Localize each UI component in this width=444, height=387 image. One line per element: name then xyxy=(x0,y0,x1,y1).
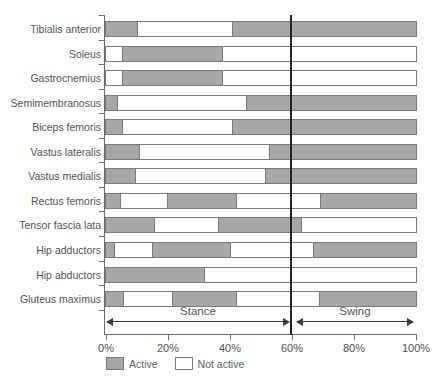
x-axis-tick-label: 80% xyxy=(332,342,376,354)
x-axis-tick xyxy=(230,334,231,340)
bar-segment-active-biceps-femoris xyxy=(105,119,123,135)
bar-segment-active-rectus-femoris xyxy=(167,193,237,209)
y-axis-tick xyxy=(99,64,104,65)
bar-segment-active-semimembranosus xyxy=(105,95,118,111)
bar-segment-active-hip-abductors xyxy=(105,267,205,283)
y-axis-tick xyxy=(99,236,104,237)
muscle-label-vastus-lateralis: Vastus lateralis xyxy=(0,145,101,159)
muscle-label-tibialis-anterior: Tibialis anterior xyxy=(0,22,101,36)
x-axis-tick xyxy=(292,334,293,340)
x-axis-tick-label: 20% xyxy=(146,342,190,354)
bar-segment-active-rectus-femoris xyxy=(105,193,121,209)
legend-label-not-active: Not active xyxy=(198,358,245,370)
y-axis-tick xyxy=(99,310,104,311)
stance-phase-arrow xyxy=(107,321,289,322)
muscle-label-rectus-femoris: Rectus femoris xyxy=(0,194,101,208)
legend: ActiveNot active xyxy=(106,357,261,370)
y-axis-tick xyxy=(99,285,104,286)
bar-segment-active-vastus-lateralis xyxy=(105,144,140,160)
y-axis-tick xyxy=(99,113,104,114)
bar-segment-active-semimembranosus xyxy=(246,95,417,111)
legend-swatch-active xyxy=(106,357,124,370)
bar-segment-active-rectus-femoris xyxy=(320,193,417,209)
muscle-label-soleus: Soleus xyxy=(0,47,101,61)
x-axis-tick-label: 0% xyxy=(84,342,128,354)
bar-segment-active-gastrocnemius xyxy=(122,70,223,86)
bar-segment-active-tensor-fascia-lata xyxy=(105,217,155,233)
y-axis-line xyxy=(104,15,105,335)
muscle-label-semimembranosus: Semimembranosus xyxy=(0,96,101,110)
muscle-label-vastus-medialis: Vastus medialis xyxy=(0,169,101,183)
bar-segment-active-gluteus-maximus xyxy=(105,291,124,307)
bar-segment-active-soleus xyxy=(122,46,223,62)
swing-phase-arrow xyxy=(297,321,413,322)
swing-phase-label: Swing xyxy=(310,305,400,317)
bar-segment-active-tibialis-anterior xyxy=(105,21,138,37)
y-axis-tick xyxy=(99,89,104,90)
x-axis-tick xyxy=(416,334,417,340)
stance-swing-divider-line xyxy=(290,15,292,335)
x-axis-line xyxy=(104,334,417,335)
bar-segment-active-vastus-medialis xyxy=(265,168,417,184)
muscle-label-gluteus-maximus: Gluteus maximus xyxy=(0,292,101,306)
bar-segment-active-biceps-femoris xyxy=(232,119,417,135)
y-axis-tick xyxy=(99,15,104,16)
x-axis-tick xyxy=(168,334,169,340)
y-axis-tick xyxy=(99,138,104,139)
stance-phase-label: Stance xyxy=(153,305,243,317)
muscle-label-gastrocnemius: Gastrocnemius xyxy=(0,71,101,85)
muscle-label-hip-adductors: Hip adductors xyxy=(0,243,101,257)
muscle-label-hip-abductors: Hip abductors xyxy=(0,268,101,282)
legend-swatch-not-active xyxy=(175,357,193,370)
muscle-label-tensor-fascia-lata: Tensor fascia lata xyxy=(0,218,101,232)
x-axis-tick-label: 40% xyxy=(208,342,252,354)
y-axis-tick xyxy=(99,40,104,41)
y-axis-tick xyxy=(99,162,104,163)
legend-label-active: Active xyxy=(129,358,158,370)
y-axis-tick xyxy=(99,261,104,262)
x-axis-tick xyxy=(354,334,355,340)
x-axis-tick-label: 100% xyxy=(394,342,438,354)
bar-segment-active-hip-adductors xyxy=(105,242,115,258)
y-axis-tick xyxy=(99,211,104,212)
gait-cycle-muscle-activity-chart: Tibialis anteriorSoleusGastrocnemiusSemi… xyxy=(0,0,444,387)
bar-segment-active-tibialis-anterior xyxy=(232,21,417,37)
x-axis-tick xyxy=(106,334,107,340)
bar-segment-active-hip-adductors xyxy=(313,242,417,258)
bar-segment-active-hip-adductors xyxy=(152,242,231,258)
y-axis-tick xyxy=(99,187,104,188)
x-axis-tick-label: 60% xyxy=(270,342,314,354)
muscle-label-biceps-femoris: Biceps femoris xyxy=(0,120,101,134)
bar-segment-active-vastus-medialis xyxy=(105,168,136,184)
